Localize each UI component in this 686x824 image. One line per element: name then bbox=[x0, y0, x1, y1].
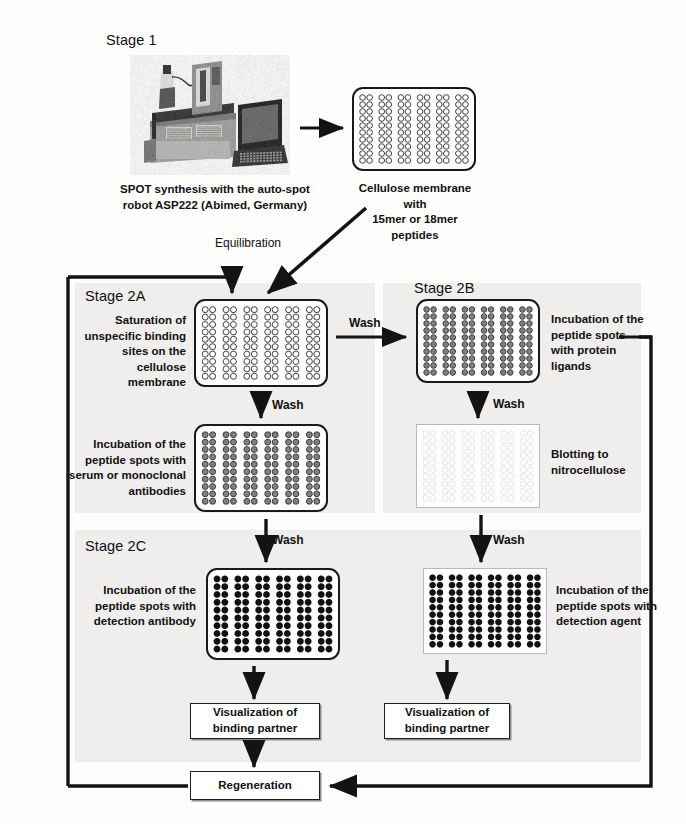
caption-detection-agent: Incubation of the peptide spots with det… bbox=[556, 583, 672, 630]
regeneration-box[interactable]: Regeneration bbox=[190, 771, 320, 800]
cellulose-membrane-stage1 bbox=[352, 87, 476, 171]
label-wash-a-to-b: Wash bbox=[349, 316, 381, 331]
membrane-serum-incubation bbox=[194, 424, 328, 512]
caption-detection-antibody: Incubation of the peptide spots with det… bbox=[78, 583, 196, 630]
caption-robot: SPOT synthesis with the auto-spot robot … bbox=[120, 182, 310, 213]
stage-2c-label: Stage 2C bbox=[85, 538, 146, 556]
label-wash-a-to-c: Wash bbox=[272, 533, 304, 548]
membrane-saturation bbox=[194, 299, 328, 387]
stage-1-label: Stage 1 bbox=[106, 32, 157, 50]
stage-2a-label: Stage 2A bbox=[85, 288, 145, 306]
caption-saturation: Saturation of unspecific binding sites o… bbox=[72, 313, 186, 391]
label-equilibration: Equilibration bbox=[215, 236, 281, 251]
membrane-detection-antibody bbox=[206, 568, 340, 660]
label-wash-a-down: Wash bbox=[272, 398, 304, 413]
caption-blotting: Blotting to nitrocellulose bbox=[551, 447, 663, 478]
panel-stage2c-bg bbox=[75, 530, 641, 762]
spot-robot-photo bbox=[130, 55, 290, 175]
caption-incubation-serum: Incubation of the peptide spots with ser… bbox=[66, 437, 186, 499]
label-wash-b-down: Wash bbox=[493, 397, 525, 412]
visualization-box-left[interactable]: Visualization of binding partner bbox=[190, 703, 320, 739]
membrane-protein-ligands bbox=[416, 299, 540, 383]
membrane-nitrocellulose-blot bbox=[416, 424, 540, 508]
figure-canvas: Stage 1 SPOT synthesis with the auto-spo… bbox=[0, 0, 686, 824]
caption-membrane-peptides: Cellulose membrane with 15mer or 18mer p… bbox=[348, 181, 482, 243]
membrane-detection-agent bbox=[423, 568, 547, 654]
visualization-box-right[interactable]: Visualization of binding partner bbox=[384, 703, 510, 739]
label-wash-b-to-c: Wash bbox=[493, 533, 525, 548]
stage-2b-label: Stage 2B bbox=[414, 280, 474, 298]
caption-incubation-ligands: Incubation of the peptide spots with pro… bbox=[551, 312, 663, 374]
